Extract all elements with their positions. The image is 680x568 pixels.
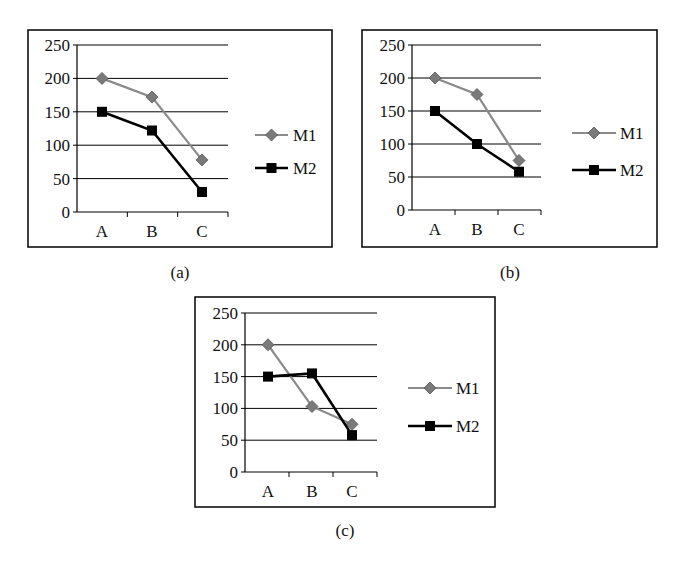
y-tick-label: 200	[213, 336, 239, 355]
y-tick-label: 150	[213, 368, 239, 387]
y-tick-label: 0	[230, 463, 239, 482]
x-tick-label: C	[513, 220, 524, 239]
x-tick-label: A	[429, 220, 442, 239]
x-tick-label: A	[262, 482, 275, 501]
legend-label-m1: M1	[456, 379, 480, 398]
data-point-m2-b	[472, 139, 482, 149]
chart-frame	[28, 30, 332, 247]
data-point-m2-b	[147, 126, 157, 136]
y-tick-label: 100	[380, 135, 406, 154]
legend-label-m1: M1	[293, 126, 317, 145]
y-tick-label: 150	[380, 102, 406, 121]
figure-caption: (c)	[336, 521, 355, 540]
legend-label-m2: M2	[620, 161, 644, 180]
legend-marker-m2	[425, 421, 435, 431]
data-point-m2-c	[197, 187, 207, 197]
figure-canvas: 050100150200250ABCM1M2(a) 05010015020025…	[0, 0, 680, 568]
y-tick-label: 100	[45, 136, 71, 155]
legend-label-m2: M2	[456, 417, 480, 436]
y-tick-label: 200	[380, 69, 406, 88]
y-tick-label: 100	[213, 399, 239, 418]
y-tick-label: 250	[380, 36, 406, 55]
line-chart-figure: 050100150200250ABCM1M2(a) 05010015020025…	[0, 0, 680, 568]
figure-caption: (a)	[171, 263, 190, 282]
legend-label-m1: M1	[620, 124, 644, 143]
legend-label-m2: M2	[293, 159, 317, 178]
chart-frame	[362, 30, 657, 247]
data-point-m2-b	[307, 368, 317, 378]
data-point-m2-a	[263, 372, 273, 382]
y-tick-label: 0	[62, 203, 71, 222]
x-tick-label: C	[196, 222, 207, 241]
x-tick-label: B	[306, 482, 317, 501]
y-tick-label: 250	[213, 304, 239, 323]
y-tick-label: 0	[397, 201, 406, 220]
chart-panel-c: 050100150200250ABCM1M2(c)	[195, 297, 495, 540]
x-tick-label: C	[346, 482, 357, 501]
y-tick-label: 200	[45, 69, 71, 88]
legend-marker-m2	[589, 165, 599, 175]
data-point-m2-a	[97, 107, 107, 117]
y-tick-label: 250	[45, 36, 71, 55]
data-point-m2-c	[514, 167, 524, 177]
x-tick-label: B	[471, 220, 482, 239]
y-tick-label: 150	[45, 103, 71, 122]
y-tick-label: 50	[388, 168, 405, 187]
chart-panel-b: 050100150200250ABCM1M2(b)	[362, 30, 657, 282]
legend-marker-m2	[267, 163, 277, 173]
y-tick-label: 50	[221, 431, 238, 450]
data-point-m2-c	[347, 430, 357, 440]
x-tick-label: B	[146, 222, 157, 241]
x-tick-label: A	[96, 222, 109, 241]
y-tick-label: 50	[53, 170, 70, 189]
data-point-m2-a	[430, 106, 440, 116]
chart-frame	[195, 297, 495, 507]
figure-caption: (b)	[500, 263, 520, 282]
chart-panel-a: 050100150200250ABCM1M2(a)	[28, 30, 332, 282]
